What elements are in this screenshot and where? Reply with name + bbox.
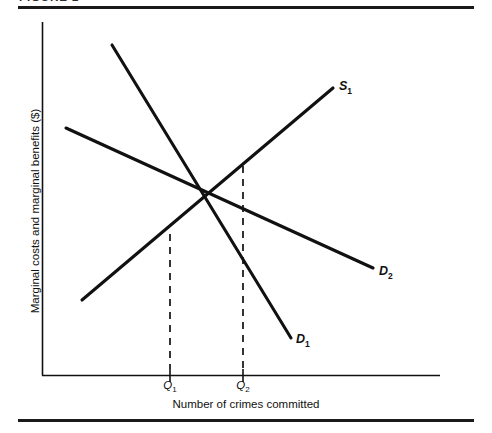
curve-label-d2: D2 — [379, 264, 393, 281]
curve-label-s1: S1 — [339, 79, 352, 96]
bottom-divider-rule — [18, 419, 474, 422]
chart-axes — [42, 22, 440, 376]
demand-curve-d2 — [66, 128, 373, 268]
economics-supply-demand-chart — [0, 0, 492, 433]
demand-curve-d1 — [112, 45, 291, 338]
x-axis-title: Number of crimes committed — [0, 398, 492, 410]
x-tick-label-q1: Q1 — [157, 379, 183, 394]
figure-container: FIGURE 2 S1 D2 D1 Q1 Q2 Number of — [0, 0, 492, 433]
curve-label-d1: D1 — [296, 332, 310, 349]
y-axis-title: Marginal costs and marginal benefits ($) — [29, 61, 41, 361]
x-tick-label-q2: Q2 — [230, 379, 256, 394]
